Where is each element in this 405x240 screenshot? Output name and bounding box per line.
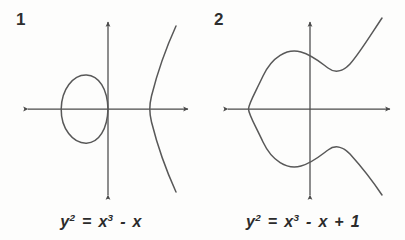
panel-2-curve [249,18,383,195]
figure-container: 1 y2 = x3 - x 2 [0,0,405,240]
panel-2: 2 y2 = x3 - x + 1 [202,0,404,240]
panel-2-caption-plus: + [334,213,344,230]
panel-2-caption-term2-var: x [318,213,327,230]
panel-1-plot [0,0,202,240]
panel-1-caption-term1-var: x [98,213,107,230]
panel-1-caption-equals: = [82,213,92,230]
panel-2-caption: y2 = x3 - x + 1 [202,213,404,231]
panel-2-caption-term3-const: 1 [351,213,360,230]
panel-1-caption-term2-var: x [133,213,142,230]
panel-1: 1 y2 = x3 - x [0,0,202,240]
panel-1-caption-minus: - [120,213,126,230]
panel-2-caption-minus: - [306,213,312,230]
panel-1-caption: y2 = x3 - x [0,213,202,231]
panel-2-plot [202,0,404,240]
panel-2-caption-lhs-var: y [246,213,255,230]
